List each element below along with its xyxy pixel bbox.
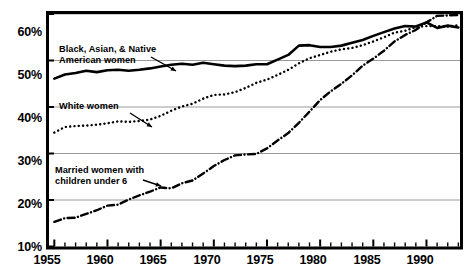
annotation-white-women: White women xyxy=(59,101,119,112)
x-tick-label-1965: 1965 xyxy=(131,254,175,267)
x-tick-label-1955: 1955 xyxy=(25,254,69,267)
x-tick-label-1960: 1960 xyxy=(78,254,122,267)
annotation-married-under-6: Married women with children under 6 xyxy=(55,165,144,186)
x-tick-label-1975: 1975 xyxy=(238,254,282,267)
y-tick-label-10: 10% xyxy=(0,241,42,253)
line-chart-plot xyxy=(0,0,473,277)
y-tick-label-50: 50% xyxy=(0,69,42,81)
annotation-arrow-1 xyxy=(130,113,152,127)
annotation-black-asian-native: Black, Asian, & Native American women xyxy=(59,44,156,65)
series-line-1 xyxy=(54,25,458,132)
x-tick-label-1990: 1990 xyxy=(398,254,442,267)
x-tick-label-1980: 1980 xyxy=(291,254,335,267)
x-tick-label-1970: 1970 xyxy=(185,254,229,267)
annotation-arrow-2 xyxy=(143,180,161,187)
y-tick-label-30: 30% xyxy=(0,155,42,167)
x-tick-label-1985: 1985 xyxy=(345,254,389,267)
y-tick-label-20: 20% xyxy=(0,198,42,210)
y-tick-label-60: 60% xyxy=(0,26,42,38)
chart-figure: 60% 50% 40% 30% 20% 10% 1955 1960 1965 1… xyxy=(0,0,473,277)
y-tick-label-40: 40% xyxy=(0,112,42,124)
